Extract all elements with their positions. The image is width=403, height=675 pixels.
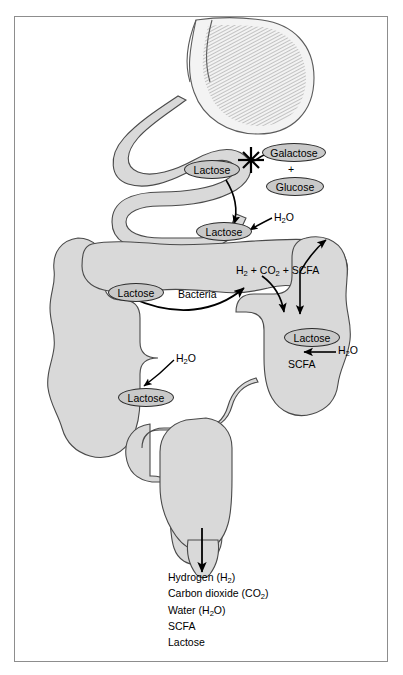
output-item-carbon-dioxide: Carbon dioxide (CO2) — [168, 586, 269, 602]
label-lactose-ileum: Lactose — [118, 388, 174, 407]
output-item-water: Water (H2O) — [168, 603, 269, 619]
excretion-output-list: Hydrogen (H2) Carbon dioxide (CO2) Water… — [168, 570, 269, 650]
output-item-scfa: SCFA — [168, 619, 269, 634]
digestive-tract-diagram: Lactose Lactose Lactose Lactose Lactose … — [0, 0, 403, 675]
label-water-descending: H2O — [176, 353, 196, 364]
lactose-jejunum-text: Lactose — [206, 226, 243, 238]
galactose-text: Galactose — [270, 147, 317, 159]
label-lactose-duodenum: Lactose — [184, 160, 240, 179]
lactose-descending-text: Lactose — [294, 332, 331, 344]
label-plus: + — [288, 163, 294, 175]
lactose-duodenum-text: Lactose — [194, 164, 231, 176]
stomach-group — [187, 18, 314, 134]
label-water-small-intestine: H2O — [274, 212, 294, 223]
label-lactose-jejunum: Lactose — [196, 222, 252, 241]
label-glucose: Glucose — [266, 177, 324, 196]
large-intestine-group — [48, 234, 359, 578]
arrow-h2o-small-intestine — [250, 218, 272, 230]
output-item-lactose: Lactose — [168, 635, 269, 650]
plus-text: + — [288, 163, 294, 175]
label-water-colon-right: H2O — [338, 345, 358, 356]
scfa-text: SCFA — [288, 358, 315, 370]
label-lactose-descending: Lactose — [284, 328, 340, 347]
lactose-ileum-text: Lactose — [128, 392, 165, 404]
output-item-hydrogen: Hydrogen (H2) — [168, 570, 269, 586]
label-scfa: SCFA — [288, 358, 315, 370]
label-lactose-colon-left: Lactose — [108, 283, 164, 302]
label-galactose: Galactose — [262, 143, 326, 162]
label-bacteria: Bacteria — [178, 288, 217, 300]
bacteria-text: Bacteria — [178, 288, 217, 300]
glucose-text: Glucose — [276, 181, 315, 193]
lactose-colon-left-text: Lactose — [118, 287, 155, 299]
label-gases: H2 + CO2 + SCFA — [236, 265, 319, 276]
